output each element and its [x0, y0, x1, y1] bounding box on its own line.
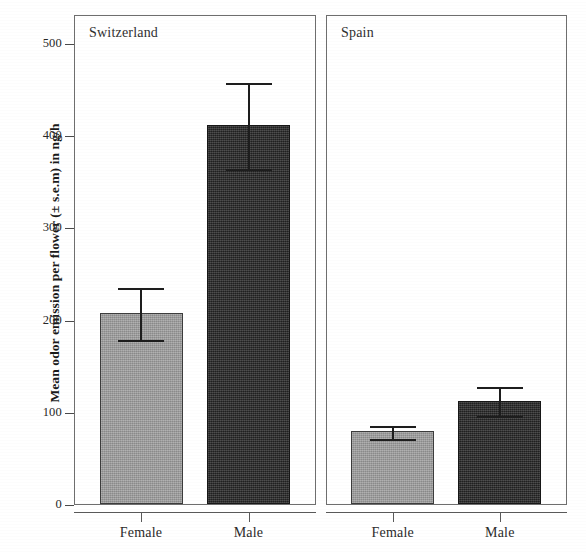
bar-switzerland-male	[207, 125, 290, 504]
bar-spain-female	[351, 431, 434, 504]
error-bar-switzerland-female	[118, 288, 164, 341]
error-bar-stem	[140, 288, 142, 341]
panel-spain: Spain	[326, 15, 567, 505]
x-tick-mark	[141, 513, 142, 522]
error-bar-switzerland-male	[226, 83, 272, 172]
x-tick-label-male: Male	[189, 525, 309, 541]
x-tick-mark	[500, 513, 501, 522]
panel-switzerland: Switzerland	[74, 15, 316, 505]
x-axis-line	[74, 512, 316, 513]
error-bar-cap-lower	[226, 169, 272, 171]
error-bar-cap-upper	[477, 387, 523, 389]
error-bar-cap-upper	[118, 288, 164, 290]
error-bar-cap-lower	[370, 439, 416, 441]
y-tick-label: 300	[43, 220, 62, 235]
error-bar-cap-upper	[226, 83, 272, 85]
x-tick-label-female: Female	[333, 525, 453, 541]
y-tick-label: 200	[43, 313, 62, 328]
error-bar-cap-upper	[370, 426, 416, 428]
y-tick-mark	[65, 321, 74, 322]
y-tick-mark	[65, 413, 74, 414]
figure-root: Mean odor emission per flower (± s.e.m) …	[0, 0, 586, 552]
y-tick-mark	[65, 136, 74, 137]
error-bar-stem	[248, 83, 250, 172]
error-bar-stem	[499, 387, 501, 418]
x-tick-label-female: Female	[81, 525, 201, 541]
error-bar-spain-male	[477, 387, 523, 418]
y-axis: 0100200300400500	[0, 0, 74, 552]
x-tick-mark	[249, 513, 250, 522]
x-axis-line	[326, 512, 567, 513]
error-bar-spain-female	[370, 426, 416, 441]
x-tick-label-male: Male	[440, 525, 560, 541]
x-tick-mark	[393, 513, 394, 522]
y-tick-label: 500	[43, 36, 62, 51]
plot-area	[75, 16, 315, 504]
y-tick-mark	[65, 44, 74, 45]
y-tick-label: 100	[43, 405, 62, 420]
error-bar-cap-lower	[118, 340, 164, 342]
y-tick-label: 0	[56, 497, 62, 512]
y-tick-mark	[65, 505, 74, 506]
plot-area	[327, 16, 566, 504]
y-tick-mark	[65, 228, 74, 229]
error-bar-cap-lower	[477, 416, 523, 418]
y-tick-label: 400	[43, 128, 62, 143]
